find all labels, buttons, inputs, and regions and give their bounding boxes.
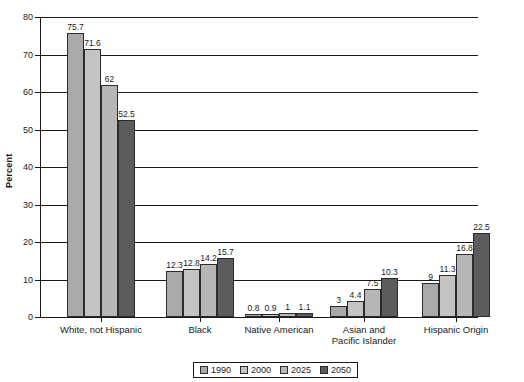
bar[interactable]: 22.5	[473, 233, 490, 317]
bar[interactable]: 0.9	[262, 314, 279, 317]
y-axis-tick-mark	[35, 205, 40, 206]
bar[interactable]: 7.5	[364, 289, 381, 317]
bar[interactable]: 1	[279, 313, 296, 317]
bar[interactable]: 4.4	[347, 301, 364, 318]
y-axis-tick-label: 60	[23, 88, 33, 97]
bar[interactable]: 62	[101, 85, 118, 318]
y-axis-tick-label: 30	[23, 200, 33, 209]
legend-item[interactable]: 1990	[200, 366, 231, 375]
bar[interactable]: 10.3	[381, 278, 398, 317]
bar-group: 911.316.822.5	[422, 17, 490, 317]
x-axis-category-label: Native American	[229, 324, 329, 335]
bar-group: 12.312.814.215.7	[166, 17, 234, 317]
y-axis-tick-mark	[35, 17, 40, 18]
bar-group: 75.771.66252.5	[67, 17, 135, 317]
x-axis-category-label: Hispanic Origin	[406, 324, 506, 335]
y-axis-tick-mark	[35, 242, 40, 243]
x-axis-tick-mark	[101, 318, 102, 322]
x-axis-tick-mark	[279, 318, 280, 322]
y-axis-tick-mark	[35, 317, 40, 318]
bar-value-label: 3	[336, 296, 341, 305]
bar-group: 34.47.510.3	[330, 17, 398, 317]
legend-swatch	[200, 366, 208, 374]
bar[interactable]: 75.7	[67, 33, 84, 317]
bar-value-label: 12.3	[166, 261, 183, 270]
legend-swatch	[240, 366, 248, 374]
y-axis-tick-mark	[35, 55, 40, 56]
legend-label: 1990	[211, 366, 231, 375]
y-axis-tick-label: 20	[23, 238, 33, 247]
y-axis-tick-mark	[35, 167, 40, 168]
bar-value-label: 12.8	[183, 259, 200, 268]
y-axis-tick-label: 50	[23, 125, 33, 134]
x-axis-tick-mark	[200, 318, 201, 322]
bar-value-label: 1.1	[299, 303, 311, 312]
bar-value-label: 7.5	[367, 279, 379, 288]
bar[interactable]: 16.8	[456, 254, 473, 317]
y-axis-tick-label: 80	[23, 13, 33, 22]
bar[interactable]: 14.2	[200, 264, 217, 317]
y-axis-tick-mark	[35, 92, 40, 93]
bar[interactable]: 15.7	[217, 258, 234, 317]
bar-value-label: 0.9	[265, 304, 277, 313]
bar-value-label: 9	[428, 273, 433, 282]
bar-group: 0.80.911.1	[245, 17, 313, 317]
plot-area: 01020304050607080 75.771.66252.512.312.8…	[40, 17, 478, 318]
legend-item[interactable]: 2000	[240, 366, 271, 375]
bar-value-label: 22.5	[473, 223, 490, 232]
bar[interactable]: 11.3	[439, 275, 456, 317]
bar-value-label: 1	[285, 303, 290, 312]
legend-label: 2025	[291, 366, 311, 375]
bar-value-label: 52.5	[118, 110, 135, 119]
x-axis-tick-mark	[456, 318, 457, 322]
x-axis-category-label: White, not Hispanic	[46, 324, 156, 335]
bar-value-label: 16.8	[456, 244, 473, 253]
x-axis-category-label: Asian and Pacific Islander	[319, 324, 409, 346]
bar[interactable]: 1.1	[296, 313, 313, 317]
bar-value-label: 15.7	[217, 248, 234, 257]
bar-value-label: 75.7	[67, 23, 84, 32]
bar[interactable]: 12.3	[166, 271, 183, 317]
bar[interactable]: 12.8	[183, 269, 200, 317]
bar-value-label: 10.3	[381, 268, 398, 277]
bar-chart-figure: Percent 01020304050607080 75.771.66252.5…	[0, 0, 524, 382]
x-axis-line	[40, 317, 478, 318]
y-axis-tick-label: 0	[28, 313, 33, 322]
bar[interactable]: 3	[330, 306, 347, 317]
bar-value-label: 11.3	[440, 265, 456, 274]
bar-value-label: 4.4	[350, 291, 362, 300]
legend-label: 2000	[251, 366, 271, 375]
x-axis-tick-mark	[364, 318, 365, 322]
y-axis-tick-label: 70	[23, 50, 33, 59]
bar[interactable]: 9	[422, 283, 439, 317]
y-axis-tick-mark	[35, 280, 40, 281]
legend-item[interactable]: 2025	[280, 366, 311, 375]
y-axis-tick-mark	[35, 130, 40, 131]
bar-value-label: 14.2	[200, 254, 217, 263]
legend-swatch	[280, 366, 288, 374]
bar-value-label: 71.6	[84, 39, 101, 48]
y-axis-tick-label: 40	[23, 163, 33, 172]
legend-label: 2050	[331, 366, 351, 375]
x-axis-category-label: Black	[170, 324, 230, 335]
legend-item[interactable]: 2050	[320, 366, 351, 375]
y-axis-title: Percent	[2, 136, 16, 206]
bar-value-label: 0.8	[248, 304, 260, 313]
bar[interactable]: 0.8	[245, 314, 262, 317]
chart-legend: 1990200020252050	[193, 362, 358, 378]
bar[interactable]: 52.5	[118, 120, 135, 317]
bar-value-label: 62	[105, 75, 114, 84]
y-axis-tick-label: 10	[23, 275, 33, 284]
legend-swatch	[320, 366, 328, 374]
bar[interactable]: 71.6	[84, 49, 101, 318]
